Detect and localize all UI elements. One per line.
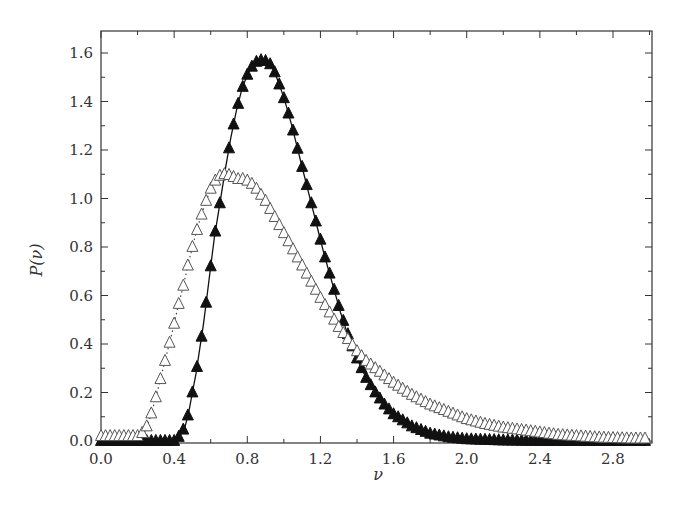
x-axis-label: ν [373,465,383,484]
y-tick-label: 0.4 [69,335,93,353]
y-tick-label: 1.6 [69,44,93,62]
y-tick-label: 1.2 [69,141,93,159]
axis-ticks [101,31,652,443]
series-lines [101,60,650,441]
x-tick-label: 0.0 [89,450,113,468]
filled-triangle-markers [96,54,651,446]
y-tick-label: 0.2 [69,384,93,402]
plot-frame [101,31,652,443]
y-axis-label: P(ν) [27,244,46,278]
x-tick-label: 2.4 [528,450,552,468]
x-tick-label: 0.8 [235,450,259,468]
y-tick-label: 1.4 [69,93,93,111]
x-tick-label: 2.8 [601,450,625,468]
series-markers [96,54,651,446]
x-tick-label: 2.0 [455,450,479,468]
open-triangle-markers [96,168,651,443]
y-tick-label: 0.8 [69,238,93,256]
x-tick-label: 0.4 [162,450,186,468]
y-tick-label: 1.0 [69,190,93,208]
series-line [101,60,650,441]
y-tick-label: 0.0 [69,432,93,450]
x-tick-label: 1.2 [308,450,332,468]
distribution-chart: 0.00.40.81.21.62.02.42.80.00.20.40.60.81… [0,0,683,516]
y-tick-label: 0.6 [69,287,93,305]
axis-tick-labels: 0.00.40.81.21.62.02.42.80.00.20.40.60.81… [69,44,625,468]
x-tick-label: 1.6 [382,450,406,468]
